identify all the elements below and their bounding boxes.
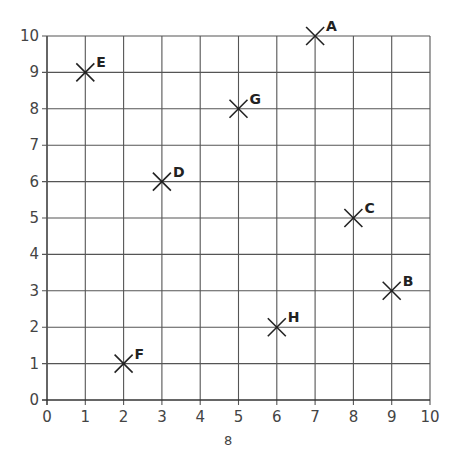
coordinate-grid: 012345678910 012345678910 ABCDEFGH xyxy=(0,0,460,455)
x-tick-label: 1 xyxy=(81,408,91,426)
x-tick-label: 9 xyxy=(387,408,397,426)
y-tick-label: 8 xyxy=(29,100,39,118)
y-tick-label: 10 xyxy=(20,27,39,45)
point-a: A xyxy=(306,18,337,45)
point-label: C xyxy=(364,200,374,216)
x-tick-label: 7 xyxy=(310,408,320,426)
x-tick-label: 4 xyxy=(195,408,205,426)
x-tick-label: 0 xyxy=(42,408,52,426)
y-tick-label: 0 xyxy=(29,391,39,409)
y-tick-label: 6 xyxy=(29,173,39,191)
y-tick-label: 1 xyxy=(29,355,39,373)
point-g: G xyxy=(230,91,262,118)
y-tick-label: 2 xyxy=(29,318,39,336)
x-tick-label: 8 xyxy=(349,408,359,426)
x-tick-label: 10 xyxy=(420,408,439,426)
y-tick-label: 5 xyxy=(29,209,39,227)
point-b: B xyxy=(383,273,414,300)
grid-lines xyxy=(42,36,430,405)
page-number: 8 xyxy=(224,433,232,448)
y-tick-label: 7 xyxy=(29,136,39,154)
point-label: F xyxy=(135,346,145,362)
point-label: E xyxy=(96,54,106,70)
plotted-points: ABCDEFGH xyxy=(76,18,413,373)
point-label: B xyxy=(403,273,414,289)
y-tick-label: 9 xyxy=(29,63,39,81)
y-axis-ticks: 012345678910 xyxy=(20,27,39,409)
x-tick-label: 2 xyxy=(119,408,129,426)
y-tick-label: 4 xyxy=(29,245,39,263)
point-label: G xyxy=(250,91,262,107)
y-tick-label: 3 xyxy=(29,282,39,300)
point-label: A xyxy=(326,18,337,34)
x-axis-ticks: 012345678910 xyxy=(42,408,439,426)
x-tick-label: 3 xyxy=(157,408,167,426)
point-h: H xyxy=(268,309,300,336)
point-e: E xyxy=(76,54,106,81)
point-f: F xyxy=(115,346,145,373)
point-c: C xyxy=(344,200,374,227)
point-label: D xyxy=(173,164,185,180)
x-tick-label: 5 xyxy=(234,408,244,426)
point-label: H xyxy=(288,309,300,325)
x-tick-label: 6 xyxy=(272,408,282,426)
point-d: D xyxy=(153,164,185,191)
